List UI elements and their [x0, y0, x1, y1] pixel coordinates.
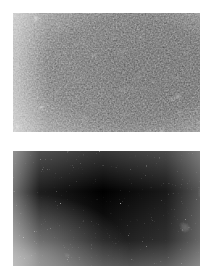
upper-micrograph-image: [13, 13, 200, 132]
panel-separator-gap: [0, 132, 213, 151]
lower-micrograph-panel: [13, 151, 200, 266]
upper-panel-left-highlight: [13, 13, 200, 132]
upper-micrograph-panel: [13, 13, 200, 132]
lower-panel-corner-highlight: [13, 151, 200, 266]
figure-root: [0, 0, 213, 275]
lower-micrograph-image: [13, 151, 200, 266]
